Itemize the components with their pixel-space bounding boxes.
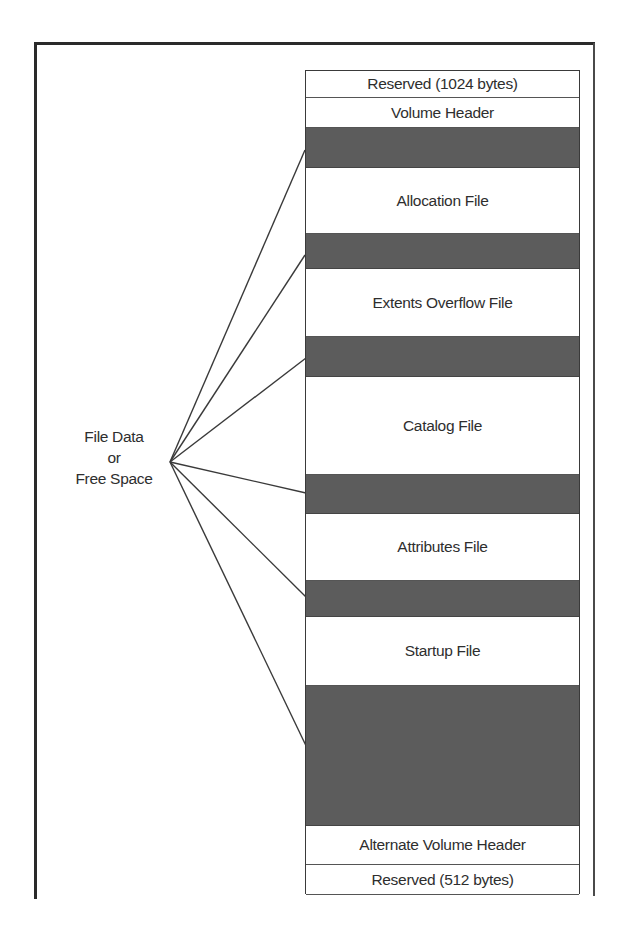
fan-label-line2: or [62,447,166,468]
segment-reserved-512: Reserved (512 bytes) [306,865,579,895]
segment-free-space-3 [306,337,579,377]
segment-alternate-volume-header: Alternate Volume Header [306,826,579,865]
segment-startup-file: Startup File [306,617,579,686]
segment-catalog-file: Catalog File [306,377,579,475]
fan-line-2 [170,255,305,462]
fan-label-line1: File Data [62,426,166,447]
segment-free-space-5 [306,581,579,617]
segment-free-space-6 [306,686,579,826]
fan-line-3 [170,358,306,462]
fan-label-line3: Free Space [62,468,166,489]
segment-allocation-file: Allocation File [306,168,579,234]
segment-free-space-2 [306,234,579,269]
fan-line-1 [170,150,305,462]
segment-volume-header: Volume Header [306,98,579,128]
fan-line-6 [170,462,309,752]
segment-extents-overflow-file: Extents Overflow File [306,269,579,337]
segment-reserved-1024: Reserved (1024 bytes) [306,71,579,98]
fan-line-4 [170,462,306,493]
segment-attributes-file: Attributes File [306,514,579,581]
segment-free-space-1 [306,128,579,168]
segment-free-space-4 [306,475,579,514]
fan-line-5 [170,462,306,597]
file-data-or-free-space-label: File Data or Free Space [62,426,166,489]
volume-layout-box: Reserved (1024 bytes) Volume Header Allo… [305,70,580,894]
